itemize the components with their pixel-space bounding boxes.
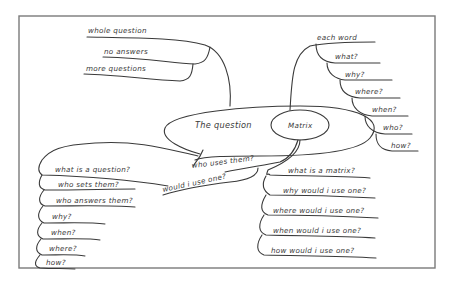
bottom-right-item: where would i use one? [273, 206, 364, 215]
bottom-left-item: how? [46, 258, 66, 267]
bottom-left-item: where? [49, 244, 77, 253]
top-right-item: who? [383, 123, 403, 132]
top-left-item: more questions [86, 64, 146, 73]
top-left-item: no answers [104, 47, 148, 56]
top-right-item: what? [335, 52, 358, 61]
bottom-left-item: what is a question? [55, 165, 130, 174]
top-right-item: when? [372, 105, 397, 114]
bottom-right-item: what is a matrix? [288, 166, 355, 175]
matrix-label: Matrix [288, 121, 313, 130]
bottom-left-item: when? [51, 228, 76, 237]
center-label: The question [195, 120, 252, 130]
bottom-right-item: why would i use one? [283, 186, 366, 195]
top-right-item: each word [317, 33, 357, 42]
top-right-item: how? [391, 141, 411, 150]
bottom-left-item: why? [52, 212, 72, 221]
top-right-item: where? [355, 87, 383, 96]
mind-map-canvas: The question Matrix whole question no an… [0, 0, 453, 289]
top-left-item: whole question [88, 26, 147, 35]
bottom-right-item: how would i use one? [271, 246, 354, 255]
diagram-frame [19, 16, 435, 268]
bottom-right-item: when would i use one? [273, 226, 361, 235]
bottom-left-item: who answers them? [56, 196, 133, 205]
bottom-left-item: who sets them? [58, 180, 119, 189]
top-right-item: why? [345, 70, 365, 79]
